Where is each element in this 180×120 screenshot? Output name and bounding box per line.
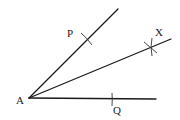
label-a: A [16,94,24,106]
label-x: X [155,26,163,38]
ray-ax-bisector [29,39,171,98]
ray-ap [29,9,118,98]
label-p: P [67,27,73,39]
ray-aq [29,98,156,99]
arc-mark-x-2 [144,42,157,53]
label-q: Q [113,104,121,116]
angle-bisector-diagram: A P X Q [0,0,180,120]
arc-mark-p [81,33,92,45]
